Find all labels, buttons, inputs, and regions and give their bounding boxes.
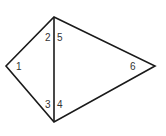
angle-label-5: 5 <box>57 32 63 43</box>
angle-label-2: 2 <box>45 32 51 43</box>
angle-label-1: 1 <box>16 61 22 72</box>
kite-diagram: 1 2 5 6 3 4 <box>0 0 166 136</box>
angle-label-4: 4 <box>57 99 63 110</box>
angle-label-6: 6 <box>130 61 136 72</box>
angle-label-3: 3 <box>45 99 51 110</box>
